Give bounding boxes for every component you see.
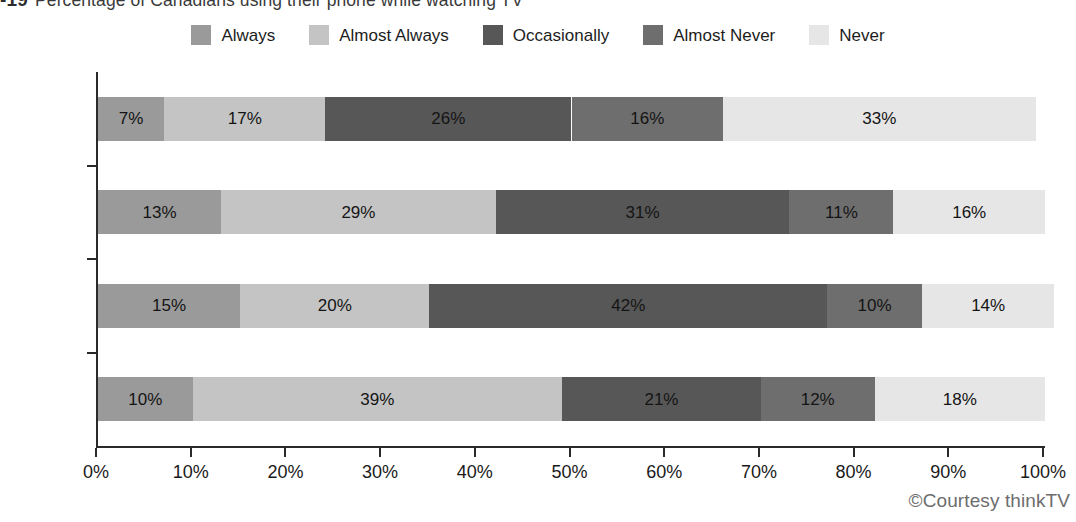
bar-group: 7%17%26%16%33% [98, 97, 1045, 141]
chart-legend: AlwaysAlmost AlwaysOccasionallyAlmost Ne… [0, 20, 1076, 50]
x-axis-tick [853, 448, 855, 457]
bar-segment-label: 29% [341, 204, 375, 221]
legend-item: Almost Never [643, 25, 775, 45]
legend-swatch-icon [809, 25, 829, 45]
title-figure-number: -19 [0, 0, 28, 10]
bar-segment-label: 39% [360, 391, 394, 408]
bar-segment: 14% [922, 284, 1055, 328]
bar-segment-label: 31% [626, 204, 660, 221]
x-axis-tick-label: 70% [741, 462, 777, 483]
plot-area: 0%10%20%30%40%50%60%70%80%90%100%A18+7%1… [96, 72, 1045, 446]
bar-segment-label: 17% [228, 110, 262, 127]
x-axis-tick [758, 448, 760, 457]
bar-segment-label: 18% [943, 391, 977, 408]
bar-segment-label: 10% [858, 297, 892, 314]
legend-item: Almost Always [309, 25, 449, 45]
bar-segment: 16% [572, 97, 724, 141]
x-axis-tick-label: 30% [362, 462, 398, 483]
legend-swatch-icon [309, 25, 329, 45]
bar-group: 15%20%42%10%14% [98, 284, 1045, 328]
x-axis-tick [569, 448, 571, 457]
bar-segment-label: 42% [611, 297, 645, 314]
bar-segment-label: 21% [644, 391, 678, 408]
x-axis-tick-label: 0% [83, 462, 109, 483]
x-axis-tick-label: 50% [551, 462, 587, 483]
bar-segment: 10% [827, 284, 922, 328]
x-axis-tick [474, 448, 476, 457]
x-axis-tick [190, 448, 192, 457]
chart-figure: -19Percentage of Canadians using their p… [0, 0, 1076, 522]
x-axis-tick-label: 90% [930, 462, 966, 483]
bar-segment: 31% [496, 190, 790, 234]
bar-segment: 13% [98, 190, 221, 234]
x-axis-tick-label: 10% [173, 462, 209, 483]
x-axis-tick-label: 100% [1020, 462, 1066, 483]
chart-title: -19Percentage of Canadians using their p… [0, 0, 1076, 15]
y-axis-tick [87, 165, 96, 167]
bar-segment: 21% [562, 377, 761, 421]
bar-segment: 18% [875, 377, 1045, 421]
x-axis-tick [663, 448, 665, 457]
bar-segment: 11% [789, 190, 893, 234]
bar-group: 13%29%31%11%16% [98, 190, 1045, 234]
bar-segment: 29% [221, 190, 496, 234]
bar-segment-label: 11% [825, 204, 858, 221]
bar-segment: 7% [98, 97, 164, 141]
x-axis-line [96, 446, 1045, 448]
x-axis-tick-label: 20% [267, 462, 303, 483]
x-axis-tick [947, 448, 949, 457]
bar-segment-label: 26% [431, 110, 465, 127]
bar-segment: 33% [723, 97, 1036, 141]
bar-segment-label: 14% [971, 297, 1005, 314]
bar-segment: 17% [164, 97, 325, 141]
bar-segment: 20% [240, 284, 429, 328]
x-axis-tick-label: 80% [836, 462, 872, 483]
x-axis-tick [95, 448, 97, 457]
legend-item: Always [191, 25, 275, 45]
bar-segment-label: 16% [952, 204, 986, 221]
x-axis-tick [379, 448, 381, 457]
bar-segment: 12% [761, 377, 875, 421]
bar-segment-label: 15% [152, 297, 186, 314]
bar-segment: 16% [893, 190, 1045, 234]
title-text: Percentage of Canadians using their phon… [35, 0, 523, 10]
bar-segment-label: 7% [119, 110, 144, 127]
bar-segment-label: 16% [630, 110, 664, 127]
bar-segment: 39% [193, 377, 562, 421]
legend-label: Occasionally [513, 27, 609, 44]
bar-segment: 42% [429, 284, 827, 328]
x-axis-tick-label: 40% [457, 462, 493, 483]
bar-segment: 26% [325, 97, 571, 141]
legend-swatch-icon [643, 25, 663, 45]
bar-segment-label: 12% [801, 391, 835, 408]
bar-segment-label: 33% [862, 110, 896, 127]
bar-segment: 15% [98, 284, 240, 328]
credit-text: ©Courtesy thinkTV [909, 490, 1070, 512]
bar-group: 10%39%21%12%18% [98, 377, 1045, 421]
legend-label: Almost Always [339, 27, 449, 44]
legend-label: Almost Never [673, 27, 775, 44]
x-axis-tick-label: 60% [646, 462, 682, 483]
bar-segment-label: 13% [143, 204, 177, 221]
bar-segment-label: 20% [318, 297, 352, 314]
legend-swatch-icon [483, 25, 503, 45]
legend-label: Always [221, 27, 275, 44]
x-axis-tick [284, 448, 286, 457]
bar-segment-label: 10% [128, 391, 162, 408]
legend-item: Occasionally [483, 25, 609, 45]
y-axis-tick [87, 352, 96, 354]
x-axis-tick [1042, 448, 1044, 457]
legend-label: Never [839, 27, 884, 44]
bar-segment: 10% [98, 377, 193, 421]
legend-swatch-icon [191, 25, 211, 45]
legend-item: Never [809, 25, 884, 45]
y-axis-tick [87, 258, 96, 260]
